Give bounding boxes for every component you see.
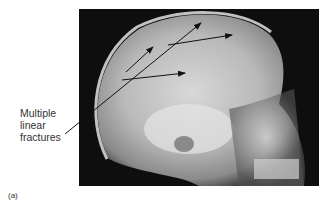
fracture-annotation: Multiple linear fractures bbox=[20, 107, 61, 143]
arrow-4 bbox=[168, 35, 232, 45]
fracture-arrows bbox=[0, 0, 334, 202]
annotation-line-2: linear bbox=[20, 119, 61, 131]
annotation-line-3: fractures bbox=[20, 131, 61, 143]
arrow-2 bbox=[122, 73, 185, 80]
panel-label: (a) bbox=[8, 191, 18, 200]
arrow-3 bbox=[126, 47, 153, 72]
annotation-line-1: Multiple bbox=[20, 107, 61, 119]
